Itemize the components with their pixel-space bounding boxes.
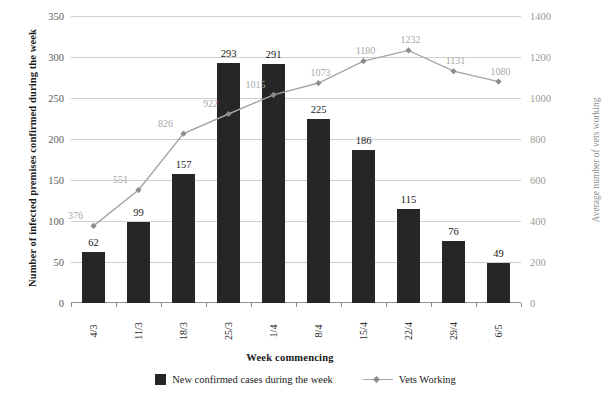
- filled-square-icon: [155, 374, 166, 385]
- line-value-label: 1080: [491, 66, 511, 77]
- x-axis-tick-label: 22/4: [402, 314, 416, 348]
- x-axis-tick-mark: [431, 303, 432, 307]
- x-axis-tick-mark: [161, 303, 162, 307]
- x-axis-tick-label: 25/3: [222, 314, 236, 348]
- line-value-label: 1131: [446, 55, 466, 66]
- x-axis-tick-mark: [206, 303, 207, 307]
- y-axis-left-tick-label: 300: [48, 52, 64, 63]
- x-axis-tick-mark: [296, 303, 297, 307]
- y-axis-right-tick-label: 600: [530, 175, 546, 186]
- x-axis-tick-label: 11/3: [132, 314, 146, 348]
- chart-legend: New confirmed cases during the week Vets…: [0, 374, 611, 385]
- plot-area: 050100150200250300350 020040060080010001…: [71, 16, 521, 303]
- y-axis-right-tick-label: 1200: [530, 52, 551, 63]
- x-axis-tick-label: 29/4: [447, 314, 461, 348]
- legend-label-bars: New confirmed cases during the week: [172, 374, 333, 385]
- y-axis-left-tick-label: 0: [59, 298, 64, 309]
- x-axis-tick-mark: [251, 303, 252, 307]
- x-axis-tick-label: 18/3: [177, 314, 191, 348]
- y-axis-left-tick-label: 250: [48, 93, 64, 104]
- line-value-label: 1073: [311, 67, 331, 78]
- legend-item-line: Vets Working: [363, 374, 456, 385]
- x-axis-tick-label: 15/4: [357, 314, 371, 348]
- legend-item-bars: New confirmed cases during the week: [155, 374, 333, 385]
- y-axis-right-tick-label: 400: [530, 216, 546, 227]
- y-axis-left-tick-label: 50: [54, 257, 65, 268]
- y-axis-right-tick-label: 1400: [530, 11, 551, 22]
- y-axis-left-tick-label: 350: [48, 11, 64, 22]
- x-axis-tick-label: 1/4: [267, 314, 281, 348]
- y-axis-right-title: Average number of vets working: [586, 35, 606, 285]
- x-axis-title: Week commencing: [60, 352, 520, 363]
- line-value-label: 551: [113, 174, 128, 185]
- x-axis-tick-label: 8/4: [312, 314, 326, 348]
- x-axis-tick-mark: [476, 303, 477, 307]
- x-axis-tick-mark: [521, 303, 522, 307]
- x-axis-tick-mark: [71, 303, 72, 307]
- y-axis-left-tick-label: 150: [48, 175, 64, 186]
- x-axis-tick-mark: [116, 303, 117, 307]
- line-value-label: 1180: [356, 45, 376, 56]
- y-axis-left-tick-label: 100: [48, 216, 64, 227]
- x-axis-tick-label: 6/5: [492, 314, 506, 348]
- line-value-label: 376: [68, 210, 83, 221]
- line-value-label: 1232: [401, 34, 421, 45]
- y-axis-right-tick-label: 200: [530, 257, 546, 268]
- line-diamond-icon: [363, 375, 393, 384]
- legend-label-line: Vets Working: [399, 374, 456, 385]
- y-axis-left-title: Number of infected premises confirmed du…: [22, 8, 44, 308]
- line-value-labels: 376551826922101510731180123211311080: [71, 16, 521, 303]
- line-value-label: 922: [203, 98, 218, 109]
- y-axis-right-tick-label: 1000: [530, 93, 551, 104]
- x-axis-tick-mark: [386, 303, 387, 307]
- y-axis-right-tick-label: 0: [530, 298, 535, 309]
- y-axis-right-tick-label: 800: [530, 134, 546, 145]
- x-axis-tick-label: 4/3: [87, 314, 101, 348]
- line-value-label: 826: [158, 118, 173, 129]
- line-value-label: 1015: [246, 79, 266, 90]
- y-axis-left-tick-label: 200: [48, 134, 64, 145]
- chart-figure: Number of infected premises confirmed du…: [0, 0, 611, 402]
- x-axis-tick-mark: [341, 303, 342, 307]
